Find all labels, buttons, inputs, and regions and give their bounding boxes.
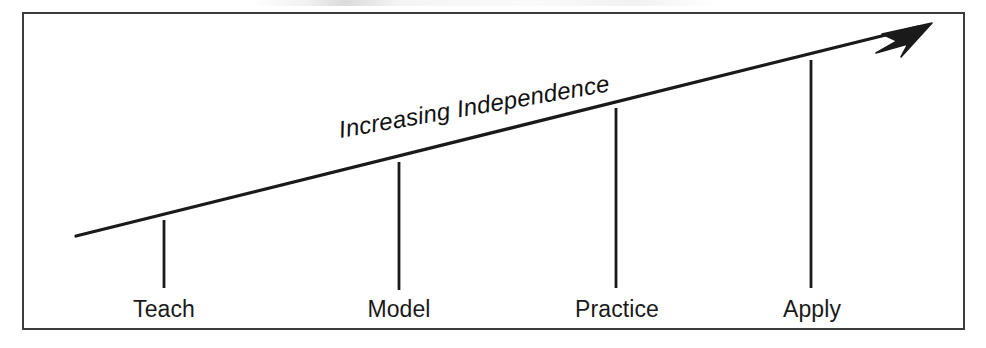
arrow-shaft	[76, 27, 918, 236]
figure-root: Increasing Independence Teach Model Prac…	[0, 0, 986, 348]
stage-label-apply: Apply	[783, 296, 841, 323]
stage-label-model: Model	[367, 296, 430, 323]
stage-label-practice: Practice	[575, 296, 659, 323]
arrowhead-icon	[876, 23, 932, 57]
stage-label-teach: Teach	[133, 296, 195, 323]
